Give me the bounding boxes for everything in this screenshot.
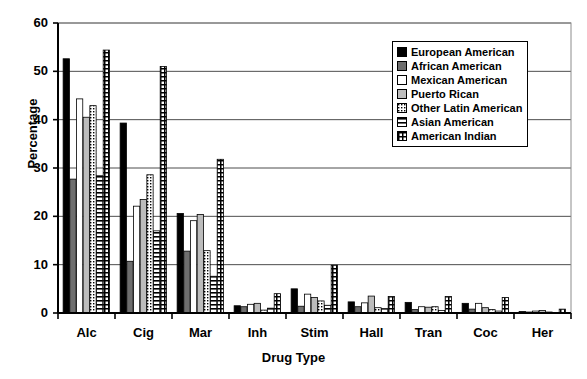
legend-label: Puerto Rican	[411, 89, 479, 100]
legend-item: Mexican American	[397, 73, 522, 87]
x-tick-label: Cig	[114, 325, 174, 340]
bar	[204, 251, 210, 313]
bar	[103, 50, 109, 313]
bar	[445, 297, 451, 313]
bar	[325, 305, 331, 313]
legend-item: European American	[397, 45, 522, 59]
x-tick-label: Stim	[285, 325, 345, 340]
y-tick-label: 20	[14, 208, 48, 223]
bar	[184, 251, 190, 313]
legend-label: European American	[411, 47, 515, 58]
bar	[147, 175, 153, 313]
y-tick-label: 60	[14, 15, 48, 30]
legend-label: Mexican American	[411, 75, 507, 86]
y-tick-label: 30	[14, 160, 48, 175]
legend-item: Other Latin American	[397, 101, 522, 115]
legend-item: Asian American	[397, 115, 522, 129]
bar	[234, 306, 240, 313]
bar	[90, 106, 96, 313]
legend-swatch-icon	[397, 103, 407, 113]
legend-label: African American	[411, 61, 502, 72]
x-tick-label: Mar	[171, 325, 231, 340]
legend-swatch-icon	[397, 75, 407, 85]
y-tick-label: 40	[14, 112, 48, 127]
bar	[502, 298, 508, 313]
x-tick-label: Tran	[399, 325, 459, 340]
bar	[177, 213, 183, 313]
bar	[475, 303, 481, 313]
legend-label: American Indian	[411, 131, 497, 142]
bar	[388, 297, 394, 313]
bar	[133, 206, 139, 313]
bar	[291, 289, 297, 313]
bar	[140, 199, 146, 313]
legend-item: African American	[397, 59, 522, 73]
bar	[368, 296, 374, 313]
chart-legend: European AmericanAfrican AmericanMexican…	[392, 41, 528, 147]
legend-swatch-icon	[397, 117, 407, 127]
bar	[154, 231, 160, 313]
bar	[254, 303, 260, 313]
bar	[361, 303, 367, 313]
bar	[63, 59, 69, 313]
bar	[247, 304, 253, 313]
x-tick-label: Hall	[342, 325, 402, 340]
bar	[190, 221, 196, 313]
y-tick-label: 10	[14, 257, 48, 272]
legend-swatch-icon	[397, 47, 407, 57]
bar	[120, 123, 126, 313]
legend-swatch-icon	[397, 131, 407, 141]
bar	[304, 294, 310, 313]
bar	[211, 276, 217, 313]
legend-label: Asian American	[411, 117, 494, 128]
x-tick-label: Her	[513, 325, 573, 340]
x-tick-label: Alc	[57, 325, 117, 340]
legend-swatch-icon	[397, 61, 407, 71]
legend-item: American Indian	[397, 129, 522, 143]
bar-chart: Percentage Drug Type	[0, 0, 587, 379]
bar	[274, 294, 280, 313]
bar	[160, 67, 166, 314]
bar	[298, 306, 304, 313]
bar	[318, 301, 324, 313]
bar	[348, 302, 354, 313]
bar	[70, 179, 76, 313]
legend-item: Puerto Rican	[397, 87, 522, 101]
bar	[217, 159, 223, 313]
x-tick-label: Coc	[456, 325, 516, 340]
bar	[83, 117, 89, 313]
bar	[311, 298, 317, 313]
bar	[405, 302, 411, 313]
legend-label: Other Latin American	[411, 103, 522, 114]
bar	[97, 176, 103, 313]
bar	[76, 99, 82, 313]
bar	[331, 265, 337, 313]
y-tick-label: 0	[14, 305, 48, 320]
y-tick-label: 50	[14, 63, 48, 78]
x-tick-label: Inh	[228, 325, 288, 340]
bar	[462, 303, 468, 313]
bar	[197, 214, 203, 313]
bar	[127, 261, 133, 313]
legend-swatch-icon	[397, 89, 407, 99]
